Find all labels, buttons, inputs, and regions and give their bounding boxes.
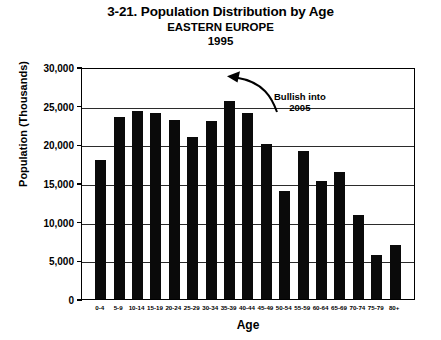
bar <box>390 245 401 299</box>
chart-title-block: 3-21. Population Distribution by Age EAS… <box>0 4 441 49</box>
x-axis-label: Age <box>81 318 415 332</box>
y-axis-tick-label: 5,000 <box>2 256 74 267</box>
x-axis-tick-label: 0-4 <box>95 304 104 311</box>
x-axis-tick-label: 10-14 <box>129 304 145 311</box>
x-axis-tick-label: 65-69 <box>331 304 347 311</box>
bar <box>261 144 272 299</box>
bar <box>169 120 180 299</box>
bar <box>298 151 309 299</box>
x-axis-tick-label: 75-79 <box>368 304 384 311</box>
y-axis-tick-label: 15,000 <box>2 179 74 190</box>
bar <box>334 172 345 299</box>
x-axis-tick-label: 25-29 <box>184 304 200 311</box>
bar <box>206 121 217 299</box>
x-axis-tick-label: 80+ <box>389 304 400 311</box>
bar <box>279 191 290 299</box>
population-distribution-chart: 3-21. Population Distribution by Age EAS… <box>0 0 441 340</box>
x-axis-tick-label: 20-24 <box>165 304 181 311</box>
x-axis-tick-label: 45-49 <box>257 304 273 311</box>
x-axis-tick-label: 70-74 <box>349 304 365 311</box>
x-axis-tick-label: 5-9 <box>114 304 123 311</box>
x-axis-tick-label: 55-59 <box>294 304 310 311</box>
y-axis-tick-label: 10,000 <box>2 217 74 228</box>
bar <box>353 215 364 299</box>
x-axis-tick-label: 35-39 <box>221 304 237 311</box>
x-axis-tick-label: 15-19 <box>147 304 163 311</box>
bar <box>371 255 382 299</box>
bar <box>95 160 106 299</box>
x-axis-tick-label: 50-54 <box>276 304 292 311</box>
annotation-line-1: Bullish into <box>274 91 326 102</box>
chart-title: 3-21. Population Distribution by Age <box>0 4 441 20</box>
y-axis-tick-label: 0 <box>2 295 74 306</box>
plot-area <box>81 68 415 300</box>
chart-year: 1995 <box>0 34 441 49</box>
y-axis-tick-label: 25,000 <box>2 101 74 112</box>
bar <box>132 111 143 299</box>
bar <box>150 113 161 299</box>
bar <box>114 117 125 299</box>
bars-layer <box>82 69 414 299</box>
x-axis-tick-label: 60-64 <box>313 304 329 311</box>
y-axis-tick-label: 20,000 <box>2 140 74 151</box>
y-axis-tick-label: 30,000 <box>2 63 74 74</box>
annotation-line-2: 2005 <box>274 102 326 113</box>
bar <box>242 113 253 299</box>
x-axis-tick-label: 40-44 <box>239 304 255 311</box>
annotation-bullish-label: Bullish into 2005 <box>274 91 326 113</box>
bar <box>187 137 198 299</box>
bar <box>224 101 235 299</box>
bar <box>316 181 327 299</box>
x-axis-tick-label: 30-34 <box>202 304 218 311</box>
chart-subtitle: EASTERN EUROPE <box>0 20 441 34</box>
